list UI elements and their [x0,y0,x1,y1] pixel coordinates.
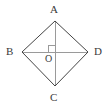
vertex-label-d: D [94,46,102,57]
geometry-figure: A B C D O [0,0,111,108]
side-da [55,21,88,52]
side-cd [55,52,88,86]
vertex-label-o: O [45,54,52,64]
vertex-label-c: C [50,92,57,103]
vertex-label-a: A [50,4,58,15]
vertex-label-b: B [6,46,13,57]
side-ab [22,21,55,52]
right-angle-marker-icon [48,45,55,52]
